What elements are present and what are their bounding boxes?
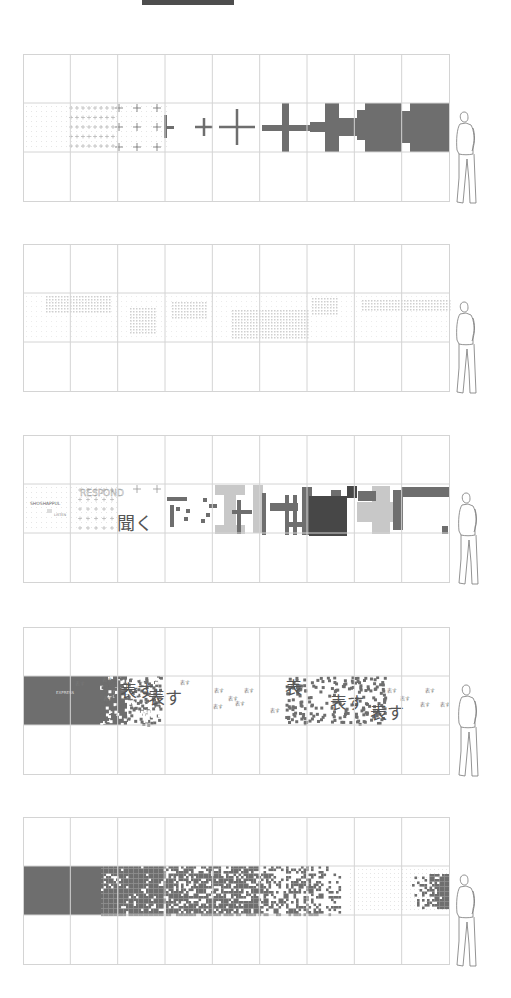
label-arawasu: 表 (285, 678, 302, 698)
label-arawasu-small: 表す (102, 676, 112, 683)
label-arawasu: 表す (370, 703, 404, 723)
label-arawasu-small: 表す (214, 687, 224, 694)
panel-5 (23, 817, 476, 966)
band (26, 103, 449, 152)
label-arawasu-small: 表す (75, 680, 85, 687)
band: 表表す表す表す表す表す表す表す表す表す表す表す表す表す表す表す表す表す表す表すE… (23, 676, 450, 727)
human-figure-icon (457, 302, 476, 393)
label-kiku: 聞く (117, 513, 153, 534)
band (26, 296, 451, 339)
label-arawasu-small: 表す (440, 701, 450, 708)
label-arawasu-small: 表す (235, 700, 245, 707)
panel-1 (23, 54, 476, 203)
human-figure-icon (457, 875, 476, 966)
panel-4: 表表す表す表す表す表す表す表す表す表す表す表す表す表す表す表す表す表す表す表すE… (23, 627, 478, 776)
band (23, 866, 450, 916)
human-figure-icon (459, 685, 478, 776)
label-shoshappul: SHOSHAPPUL (30, 501, 61, 506)
label-arawasu-small: 表す (244, 687, 254, 694)
label-listen: LISTEN (54, 513, 67, 517)
human-figure-icon (459, 493, 478, 584)
label-arawasu: 表す (120, 681, 154, 701)
label-arawasu-small: 表す (425, 687, 435, 694)
label-arawasu-small: 表す (213, 703, 223, 710)
label-express: EXPRESS (56, 690, 75, 695)
label-arawasu: 表す (330, 693, 364, 713)
panel-2 (23, 244, 476, 393)
grid-lines (23, 244, 450, 392)
label-arawasu-small: 表す (387, 687, 397, 694)
panel-3: SHOSHAPPULLISTENRESPOND聞く (23, 435, 478, 584)
label-arawasu-small: 表す (270, 707, 280, 714)
human-figure-icon (457, 112, 476, 203)
diagram-svg: SHOSHAPPULLISTENRESPOND聞く表表す表す表す表す表す表す表す… (0, 0, 511, 998)
label-arawasu-small: 表す (180, 679, 190, 686)
label-arawasu-small: 表す (103, 695, 113, 702)
band: SHOSHAPPULLISTENRESPOND聞く (26, 485, 449, 536)
label-arawasu-small: 表す (420, 701, 430, 708)
